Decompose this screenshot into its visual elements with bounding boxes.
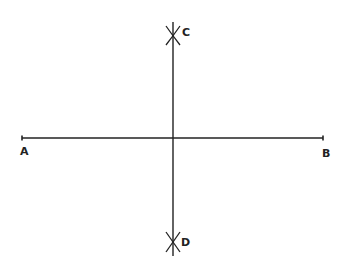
label-c: C — [182, 27, 190, 38]
label-a: A — [20, 146, 29, 157]
label-d: D — [181, 237, 190, 248]
construction-diagram — [0, 0, 351, 271]
label-b: B — [322, 148, 330, 159]
